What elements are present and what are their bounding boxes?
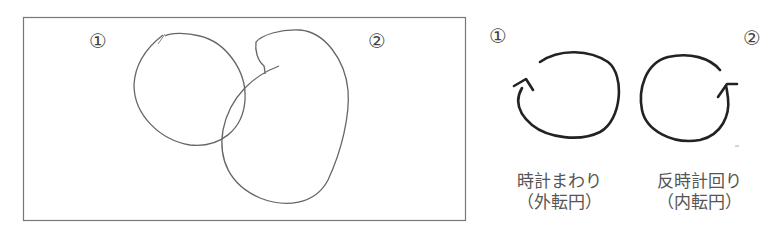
left-marker-1: ①	[89, 31, 107, 51]
caption-counterclockwise-line1: 反時計回り	[639, 171, 759, 192]
caption-clockwise-line1: 時計まわり	[499, 171, 619, 192]
counterclockwise-circle	[641, 55, 728, 141]
trace-loop-1	[134, 33, 245, 145]
right-marker-2: ②	[743, 28, 761, 48]
clockwise-circle	[518, 52, 619, 137]
right-marker-1: ①	[489, 26, 507, 46]
caption-clockwise-line2: （外転円）	[499, 192, 619, 213]
caption-counterclockwise-line2: （内転円）	[639, 192, 759, 213]
left-marker-2: ②	[368, 31, 386, 51]
clockwise-arrowhead	[514, 79, 533, 90]
caption-counterclockwise: 反時計回り （内転円）	[639, 171, 759, 213]
caption-clockwise: 時計まわり （外転円）	[499, 171, 619, 213]
